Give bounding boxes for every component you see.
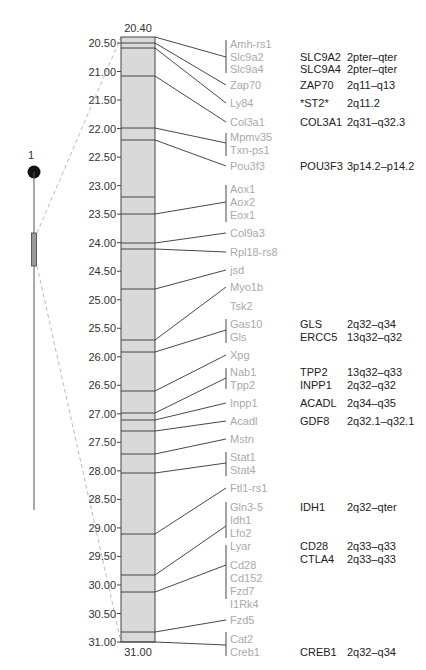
human-gene-label: CTLA4: [300, 553, 334, 565]
scale-tick-label: 27.50: [88, 436, 116, 448]
mouse-gene-label: Ftl1-rs1: [230, 482, 267, 494]
scale-tick-label: 25.00: [88, 294, 116, 306]
mouse-gene-label: Stat1: [230, 451, 256, 463]
mouse-gene-label: Tsk2: [230, 300, 253, 312]
human-locus-label: 2q32–q34: [347, 318, 396, 330]
human-gene-label: COL3A1: [300, 116, 342, 128]
mouse-gene-label: Amh-rs1: [230, 38, 272, 50]
scale-tick-label: 29.00: [88, 522, 116, 534]
scale-tick-label: 21.50: [88, 94, 116, 106]
scale-tick-label: 29.50: [88, 550, 116, 562]
human-locus-label: 2q11–q13: [347, 79, 395, 91]
mouse-gene-label: Eox1: [230, 209, 255, 221]
human-gene-label: CREB1: [300, 646, 337, 658]
scale-tick-label: 23.00: [88, 180, 116, 192]
human-locus-label: 13q32–q33: [347, 366, 402, 378]
mouse-gene-label: Fzd5: [230, 614, 254, 626]
human-locus-label: 13q32–q32: [347, 331, 402, 343]
human-gene-label: GLS: [300, 318, 322, 330]
human-gene-label: TPP2: [300, 366, 328, 378]
human-gene-label: *ST2*: [300, 97, 329, 109]
human-locus-label: 2q32.1–q32.1: [347, 415, 414, 427]
human-gene-label: ACADL: [300, 397, 337, 409]
human-locus-label: 2q32–q32: [347, 379, 396, 391]
mouse-gene-label: Cd28: [230, 559, 256, 571]
mouse-gene-label: Nab1: [230, 366, 256, 378]
scale-tick-label: 30.50: [88, 608, 116, 620]
mouse-gene-label: Rpl18-rs8: [230, 246, 278, 258]
mouse-gene-label: Zap70: [230, 79, 261, 91]
cm-scale: 20.5021.0021.5022.0022.5023.0023.5024.00…: [88, 37, 121, 648]
mouse-gene-label: Tpp2: [230, 379, 255, 391]
mouse-gene-label: Acadl: [230, 415, 258, 427]
connector-lines: [155, 37, 226, 656]
human-locus-label: 2q33–q33: [347, 540, 396, 552]
human-gene-label: CD28: [300, 540, 328, 552]
region-highlight: [32, 233, 37, 266]
mouse-gene-label: Aox1: [230, 183, 255, 195]
mouse-gene-label: Aox2: [230, 196, 255, 208]
mouse-gene-label: I1Rk4: [230, 598, 259, 610]
mouse-gene-label: Creb1: [230, 646, 260, 658]
scale-tick-label: 26.50: [88, 379, 116, 391]
mouse-gene-list: Amh-rs1Slc9a2Slc9a4Zap70Ly84Col3a1Mpmv35…: [229, 38, 278, 658]
human-gene-label: POU3F3: [300, 160, 343, 172]
mouse-gene-label: Ly84: [230, 97, 253, 109]
mouse-gene-label: Gas10: [230, 318, 262, 330]
human-locus-label: 2q32–q34: [347, 646, 396, 658]
scale-tick-label: 28.00: [88, 465, 116, 477]
mouse-gene-label: Myo1b: [230, 281, 263, 293]
human-locus-label: 2q31–q32.3: [347, 116, 405, 128]
human-locus-label: 2q33–q33: [347, 553, 396, 565]
mouse-gene-label: Inpp1: [230, 397, 258, 409]
mouse-gene-label: Cat2: [230, 633, 253, 645]
mouse-gene-label: jsd: [229, 264, 244, 276]
mouse-gene-label: Xpg: [230, 349, 250, 361]
mouse-gene-label: Stat4: [230, 464, 256, 476]
scale-tick-label: 26.00: [88, 351, 116, 363]
scale-tick-label: 20.50: [88, 37, 116, 49]
mouse-gene-label: Col3a1: [230, 116, 265, 128]
scale-tick-label: 24.50: [88, 265, 116, 277]
scale-tick-label: 22.50: [88, 151, 116, 163]
mouse-gene-label: Cd152: [230, 572, 262, 584]
human-locus-label: 3p14.2–p14.2: [347, 160, 414, 172]
mouse-gene-label: Idh1: [230, 514, 251, 526]
human-locus-label: 2q34–q35: [347, 397, 396, 409]
mouse-gene-label: Mstn: [230, 433, 254, 445]
human-gene-label: SLC9A2: [300, 51, 341, 63]
scale-tick-label: 24.00: [88, 237, 116, 249]
human-gene-label: IDH1: [300, 501, 325, 513]
human-locus-label: 2q32–qter: [347, 501, 397, 513]
top-position-label: 20.40: [124, 22, 152, 34]
scale-tick-label: 21.00: [88, 66, 116, 78]
mouse-gene-label: Txn-ps1: [230, 144, 270, 156]
human-gene-label: ERCC5: [300, 331, 337, 343]
scale-tick-label: 22.00: [88, 123, 116, 135]
human-homolog-list: SLC9A22pter–qterSLC9A42pter–qterZAP702q1…: [300, 51, 414, 658]
mouse-gene-label: Fzd7: [230, 585, 254, 597]
human-locus-label: 2pter–qter: [347, 51, 397, 63]
human-locus-label: 2pter–qter: [347, 63, 397, 75]
human-gene-label: SLC9A4: [300, 63, 341, 75]
scale-tick-label: 31.00: [88, 636, 116, 648]
human-locus-label: 2q11.2: [347, 97, 380, 109]
scale-tick-label: 27.00: [88, 408, 116, 420]
mouse-gene-label: Lfo2: [230, 527, 251, 539]
scale-tick-label: 25.50: [88, 322, 116, 334]
linkage-map: 1 20.5021.0021.5022.0022.5023.0023.5024.…: [0, 0, 426, 670]
human-gene-label: GDF8: [300, 415, 329, 427]
mouse-gene-label: Col9a3: [230, 227, 265, 239]
mouse-gene-label: Slc9a2: [230, 51, 264, 63]
scale-tick-label: 23.50: [88, 208, 116, 220]
human-gene-label: INPP1: [300, 379, 332, 391]
mouse-gene-label: Mpmv35: [230, 131, 272, 143]
mouse-gene-label: Slc9a4: [230, 63, 264, 75]
mouse-gene-label: Gln3-5: [230, 501, 263, 513]
scale-tick-label: 30.00: [88, 579, 116, 591]
bottom-position-label: 31.00: [124, 646, 152, 658]
human-gene-label: ZAP70: [300, 79, 334, 91]
mouse-gene-label: Pou3f3: [230, 160, 265, 172]
mouse-gene-label: Gls: [230, 331, 247, 343]
mouse-gene-label: Lyar: [230, 540, 251, 552]
